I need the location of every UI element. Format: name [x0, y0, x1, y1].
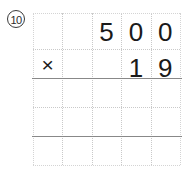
multiplier-digit-4: 9 — [151, 50, 180, 86]
multiplier-digit-1 — [62, 50, 91, 86]
multiplier-digit-2 — [92, 50, 121, 86]
grid-vline-5 — [180, 13, 181, 165]
calculation-grid: 5 0 0 × 1 9 — [33, 13, 180, 165]
worksheet-problem: 10 5 0 0 × 1 9 — [0, 0, 187, 178]
grid-hline-3 — [33, 107, 180, 108]
multiplicand-digit-1 — [62, 14, 91, 50]
problem-number-badge: 10 — [7, 10, 25, 28]
multiplicand-digit-3: 0 — [121, 14, 150, 50]
multiplicand-digit-0 — [33, 14, 62, 50]
multiplicand-digit-2: 5 — [92, 14, 121, 50]
grid-hline-5 — [33, 165, 180, 166]
multiplicand-digit-4: 0 — [151, 14, 180, 50]
multiplier-digit-3: 1 — [121, 50, 150, 86]
total-rule — [32, 136, 182, 137]
multiply-operator-icon: × — [33, 50, 62, 79]
